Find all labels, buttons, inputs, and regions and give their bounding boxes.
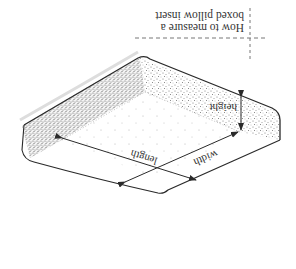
caption-line-1: How to measure a [161,22,244,34]
diagram-caption: How to measure a boxed pillow insert [154,9,244,34]
pillow-measurement-diagram: How to measure a boxed pillow insert hei… [0,0,296,269]
label-height: height [210,102,238,114]
caption-line-2: boxed pillow insert [154,9,244,22]
